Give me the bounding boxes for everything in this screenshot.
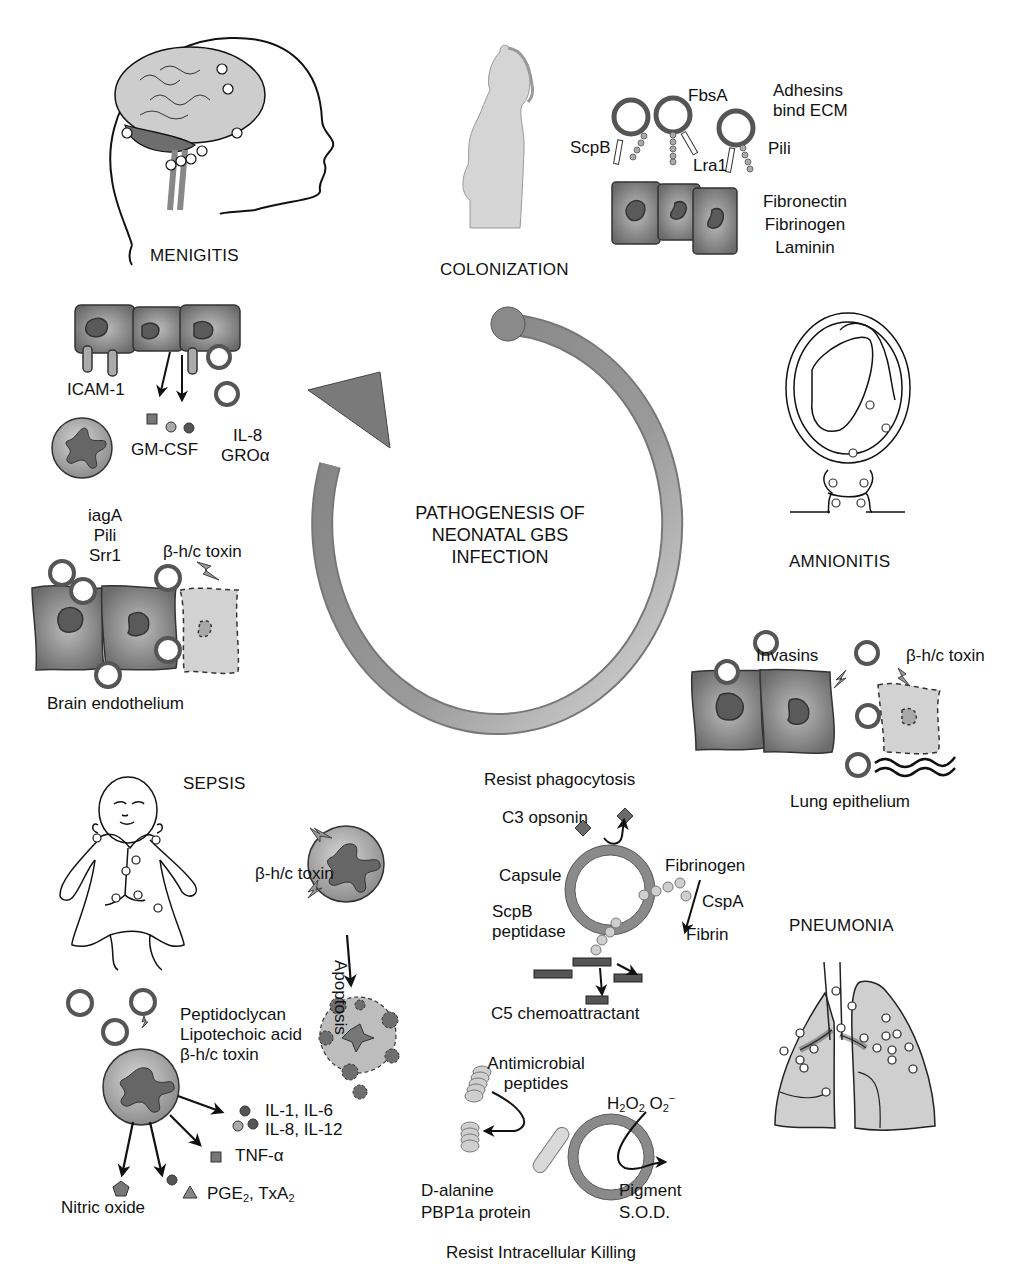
superoxide-superscript: − (669, 1092, 675, 1104)
stimulus-toxin: β-h/c toxin (180, 1045, 302, 1065)
tnf-square-icon (211, 1152, 221, 1162)
cytokine-dot-icon (233, 1121, 243, 1131)
label-dalanine-pbp1a: D-alanine PBP1a protein (421, 1180, 531, 1224)
lightning-toxin-icon (142, 1016, 148, 1028)
label-apoptosis: Apoptosis (330, 960, 350, 1035)
c5-fragments (534, 958, 642, 1004)
label-icam1: ICAM-1 (67, 380, 125, 400)
brain-factors-list: iagA Pili Srr1 (80, 506, 130, 566)
ecm-laminin: Laminin (745, 236, 865, 259)
cytokine-dot-icon (184, 423, 194, 433)
amp-line2: peptides (476, 1074, 596, 1094)
label-c5-chemoattractant: C5 chemoattractant (491, 1004, 639, 1024)
stage-label-amnionitis: AMNIONITIS (789, 552, 890, 572)
label-gmcsf: GM-CSF (131, 440, 198, 460)
center-title-line3: INFECTION (390, 546, 610, 568)
label-pge-txa: PGE2, TxA2 (207, 1184, 295, 1208)
label-brain-endothelium: Brain endothelium (47, 694, 184, 714)
stimulus-peptidoglycan: Peptidoclycan (180, 1005, 302, 1025)
factor-srr1: Srr1 (80, 546, 130, 566)
txa-triangle-icon (183, 1186, 197, 1198)
pge-dot-icon (167, 1175, 177, 1185)
center-title-line2: NEONATAL GBS (390, 524, 610, 546)
cytokine-dot-icon (166, 422, 176, 432)
sepsis-bacteria (68, 990, 155, 1044)
neutrophil-icon (52, 418, 112, 478)
adhesin-label-scpb: ScpB (570, 138, 611, 158)
center-title: PATHOGENESIS OF NEONATAL GBS INFECTION (390, 502, 610, 568)
label-nitric-oxide: Nitric oxide (61, 1198, 145, 1218)
pigment-text: Pigment (619, 1180, 681, 1202)
adhesins-note-line1: Adhesins (773, 81, 848, 101)
pge-text: PGE (207, 1184, 243, 1203)
adhesins-note: Adhesins bind ECM (773, 81, 848, 121)
ecm-fibrinogen: Fibrinogen (745, 213, 865, 236)
heading-resist-intracellular-killing: Resist Intracellular Killing (446, 1243, 636, 1263)
capsule-bacterium-icon (570, 850, 650, 930)
stage-label-menigitis: MENIGITIS (150, 246, 239, 266)
dalanine-text: D-alanine (421, 1180, 531, 1202)
label-antimicrobial-peptides: Antimicrobial peptides (476, 1054, 596, 1094)
adhesin-label-lra1: Lra1 (693, 156, 727, 176)
gmcsf-square-icon (147, 414, 157, 424)
label-brain-toxin: β-h/c toxin (163, 542, 242, 562)
ecm-fibronectin: Fibronectin (745, 190, 865, 213)
label-scpb-peptidase: ScpB peptidase (492, 902, 566, 942)
lightning-toxin-icon (197, 562, 219, 580)
sepsis-neutrophil-icon (103, 1049, 179, 1125)
label-invasins: Invasins (756, 646, 818, 666)
o-text: O (625, 1094, 638, 1113)
scpb-line2: peptidase (492, 922, 566, 942)
meningitis-bacteria (208, 346, 238, 405)
c3-deflect-arrow (604, 820, 624, 844)
lightning-toxin-icon (834, 670, 846, 688)
adhesin-label-fbsa: FbsA (688, 86, 728, 106)
amnion-bacteria (829, 401, 890, 507)
stimulus-lipoteichoic-acid: Lipotechoic acid (180, 1025, 302, 1045)
adhesin-label-pili: Pili (768, 139, 791, 159)
fetus-amnion-icon (786, 313, 910, 513)
label-lung-toxin: β-h/c toxin (906, 646, 985, 666)
amp-line1: Antimicrobial (476, 1054, 596, 1074)
label-fibrinogen: Fibrinogen (665, 856, 745, 876)
cytokine-dot-icon (248, 1119, 258, 1129)
label-cytokines-2: IL-8, IL-12 (265, 1120, 343, 1140)
adhesins-note-line2: bind ECM (773, 101, 848, 121)
h-text: H (607, 1094, 619, 1113)
cytokine-arrows (160, 352, 182, 400)
label-fibrin: Fibrin (686, 925, 729, 945)
brain-endothelium-cells (32, 586, 238, 674)
stage-label-pneumonia: PNEUMONIA (789, 916, 894, 936)
label-cytokines-1: IL-1, IL-6 (265, 1101, 333, 1121)
heading-resist-phagocytosis: Resist phagocytosis (484, 770, 635, 790)
stage-label-sepsis: SEPSIS (183, 774, 246, 794)
scpb-line1: ScpB (492, 902, 566, 922)
stage-label-colonization: COLONIZATION (440, 260, 569, 280)
sepsis-stimuli-list: Peptidoclycan Lipotechoic acid β-h/c tox… (180, 1005, 302, 1065)
label-c3-opsonin: C3 opsonin (502, 808, 588, 828)
factor-pili: Pili (80, 526, 130, 546)
pbp1a-text: PBP1a protein (421, 1202, 531, 1224)
cytokine-dot-icon (240, 1106, 250, 1116)
pbp1a-protein-icon (530, 1125, 571, 1176)
peptide-repel-arrow (485, 1092, 524, 1131)
label-cspa: CspA (702, 892, 744, 912)
factor-iaga: iagA (80, 506, 130, 526)
label-il8: IL-8 (233, 426, 262, 446)
label-lung-epithelium: Lung epithelium (790, 792, 910, 812)
label-ros: H2O2 O2− (607, 1088, 675, 1118)
brain-head-icon (110, 38, 333, 265)
c5-cleave-arrow (600, 968, 602, 994)
superoxide-text: O (645, 1094, 663, 1113)
txa-subscript: 2 (288, 1192, 294, 1204)
label-groa: GROα (221, 446, 270, 466)
label-capsule: Capsule (499, 866, 561, 886)
nitric-oxide-pentagon-icon (113, 1181, 129, 1196)
fibrin-strands-icon (875, 757, 955, 776)
label-tnf: TNF-α (235, 1146, 284, 1166)
pregnant-woman-icon (463, 45, 533, 228)
colonization-bacteria (612, 98, 753, 254)
label-pigment-sod: Pigment S.O.D. (619, 1180, 681, 1224)
label-apoptosis-toxin: β-h/c toxin (255, 864, 334, 884)
c5-cleave-arrow (617, 964, 636, 974)
